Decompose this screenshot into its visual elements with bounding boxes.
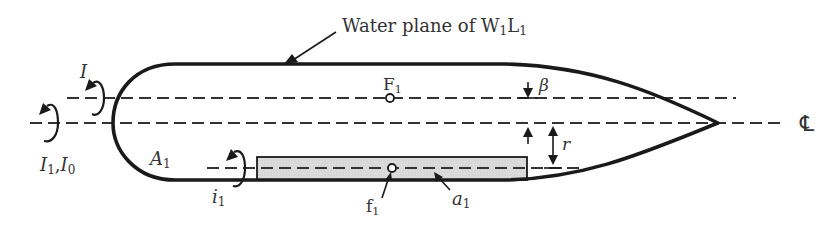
label-beta: β [538,75,549,95]
centroid-F1-marker [386,94,394,102]
label-f1: f1 [366,196,379,218]
centroid-f1-marker [388,164,396,172]
up-arrowhead [523,127,533,137]
r-arrowhead-top [548,126,558,136]
r-arrowhead-bottom [548,155,558,165]
waterplane-diagram: Water plane of W1L1 I I1,I0 A1 i1 F1 f1 … [0,0,839,227]
beta-arrowhead [523,88,533,98]
title-leader-line [293,32,336,60]
label-A1: A1 [148,148,171,171]
title-label: Water plane of W1L1 [342,15,527,38]
label-I1-I0: I1,I0 [39,154,75,177]
label-a1: a1 [452,188,470,211]
label-I: I [79,61,88,82]
rotation-icon-I [85,79,104,115]
label-F1: F1 [383,74,402,96]
centerline-symbol: ℄ [799,111,815,136]
label-i1: i1 [212,186,225,209]
label-r: r [562,134,571,154]
